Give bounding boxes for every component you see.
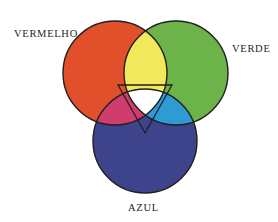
label-azul: AZUL — [128, 203, 159, 214]
color-venn-diagram: VERMELHO VERDE AZUL — [0, 0, 278, 222]
label-vermelho: VERMELHO — [14, 29, 78, 40]
label-verde: VERDE — [232, 44, 271, 55]
